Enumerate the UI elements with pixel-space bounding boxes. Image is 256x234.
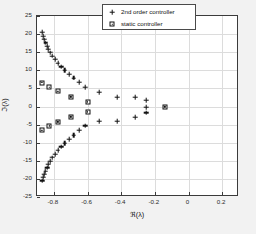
data-point-plus — [115, 95, 120, 100]
data-point-plus — [83, 123, 88, 128]
data-point-plus — [97, 119, 102, 124]
y-tick-label: 5 — [12, 84, 32, 90]
figure-container: -0.8-0.6-0.4-0.200.2-25-20-15-10-5051015… — [0, 0, 256, 234]
y-tick-label: 20 — [12, 30, 32, 36]
x-tick-label: 0 — [186, 199, 189, 205]
data-point-plus — [144, 110, 149, 115]
data-point-square — [162, 104, 167, 109]
y-axis-title: ℑ(λ) — [1, 98, 8, 112]
data-point-plus — [97, 90, 102, 95]
legend-entry-0: 2nd order controller — [103, 6, 195, 18]
legend-label-0: 2nd order controller — [121, 9, 175, 15]
x-tick-label: -0.2 — [148, 199, 159, 205]
y-tick-label: 10 — [12, 66, 32, 72]
data-point-square — [85, 109, 90, 114]
y-tick-label: -20 — [12, 175, 32, 181]
data-point-plus — [115, 119, 120, 124]
y-tick-label: 25 — [12, 12, 32, 18]
data-point-square — [39, 80, 44, 85]
data-point-square — [47, 85, 52, 90]
data-point-square — [55, 119, 60, 124]
data-point-plus — [133, 115, 138, 120]
data-point-plus — [71, 76, 76, 81]
data-point-plus — [133, 95, 138, 100]
data-point-square — [68, 94, 73, 99]
y-tick-label: -25 — [12, 193, 32, 199]
x-tick-label: -0.4 — [115, 199, 126, 205]
data-point-plus — [144, 98, 149, 103]
x-tick-label: -0.6 — [81, 199, 92, 205]
x-tick-label: -0.8 — [47, 199, 58, 205]
series-layer — [37, 16, 237, 195]
data-point-plus — [71, 133, 76, 138]
legend: 2nd order controller static controller — [102, 4, 196, 30]
data-point-square — [55, 89, 60, 94]
data-point-square — [39, 128, 44, 133]
legend-entry-1: static controller — [103, 18, 195, 30]
data-point-square — [85, 99, 90, 104]
data-point-plus — [40, 178, 45, 183]
x-tick-label: 0.2 — [217, 199, 226, 205]
y-tick-mark — [37, 197, 40, 198]
data-point-square — [47, 123, 52, 128]
data-point-square — [68, 114, 73, 119]
legend-marker-square-icon — [103, 18, 121, 30]
data-point-plus — [67, 137, 72, 142]
data-point-plus — [83, 85, 88, 90]
legend-label-1: static controller — [121, 21, 163, 27]
x-axis-title: ℜ(λ) — [130, 211, 145, 218]
legend-marker-plus-icon — [103, 6, 121, 18]
y-tick-label: 15 — [12, 48, 32, 54]
y-tick-label: -10 — [12, 139, 32, 145]
y-tick-label: 0 — [12, 102, 32, 108]
data-point-plus — [77, 80, 82, 85]
data-point-plus — [77, 128, 82, 133]
y-tick-label: -15 — [12, 157, 32, 163]
plot-area — [36, 15, 238, 196]
y-tick-label: -5 — [12, 120, 32, 126]
data-point-plus — [144, 105, 149, 110]
